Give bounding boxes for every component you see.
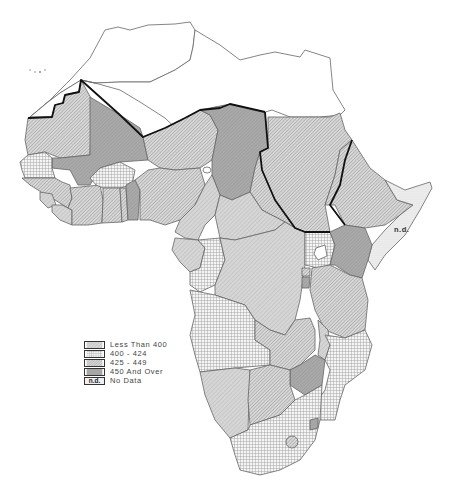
no-data-annotation: n.d. bbox=[394, 225, 409, 234]
legend-item-lt400: Less Than 400 bbox=[84, 340, 194, 349]
swatch-less-than-400 bbox=[84, 341, 105, 349]
island bbox=[34, 71, 36, 73]
lake-chad bbox=[203, 167, 211, 173]
region-ivory-coast bbox=[68, 185, 103, 225]
island bbox=[29, 69, 31, 71]
swatch-425-449 bbox=[84, 359, 105, 367]
legend-label: 450 And Over bbox=[110, 368, 163, 376]
region-swaziland bbox=[310, 418, 318, 430]
region-lesotho bbox=[286, 436, 298, 448]
region-sw-africa bbox=[200, 368, 250, 438]
legend-label: Less Than 400 bbox=[110, 341, 167, 349]
swatch-450-and-over bbox=[84, 368, 105, 376]
region-ghana bbox=[102, 188, 122, 223]
africa-choropleth-map bbox=[0, 0, 457, 495]
swatch-nd-text: n.d. bbox=[85, 377, 104, 384]
legend-item-no-data: n.d. No Data bbox=[84, 377, 194, 386]
legend-item-400-424: 400 - 424 bbox=[84, 349, 194, 358]
legend-label: No Data bbox=[110, 377, 142, 385]
region-senegal bbox=[20, 152, 55, 178]
region-burundi bbox=[302, 277, 310, 288]
legend-label: 425 - 449 bbox=[110, 359, 147, 367]
map-legend: Less Than 400 400 - 424 425 - 449 450 An… bbox=[84, 340, 194, 386]
island bbox=[39, 71, 41, 73]
legend-label: 400 - 424 bbox=[110, 350, 147, 358]
swatch-no-data: n.d. bbox=[84, 377, 105, 385]
swatch-400-424 bbox=[84, 350, 105, 358]
island bbox=[44, 69, 46, 71]
region-rwanda bbox=[302, 268, 310, 276]
